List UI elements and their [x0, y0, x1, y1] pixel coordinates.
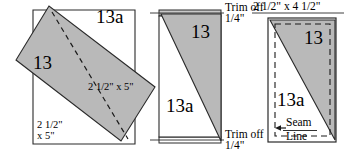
middle-label-13a: 13a [166, 96, 193, 115]
left-label-13: 13 [33, 53, 52, 72]
right-size-label: 2 1/2" x 4 1/2" [253, 1, 321, 13]
middle-trim-top-line2: 1/4" [225, 13, 244, 25]
left-dim-gray-13: 2 1/2" x 5" [88, 82, 134, 93]
middle-label-13: 13 [191, 22, 210, 41]
right-seam-line-l1: Seam [286, 117, 312, 129]
right-label-13a: 13a [277, 90, 304, 109]
middle-trim-bottom-line2: 1/4" [225, 140, 244, 152]
left-dim-white-13a: 2 1/2" x 5" [37, 120, 63, 141]
left-label-13a: 13a [96, 7, 123, 26]
right-label-13: 13 [304, 28, 323, 47]
middle-panel [150, 10, 224, 143]
right-seam-line-l2: Line [286, 131, 307, 143]
